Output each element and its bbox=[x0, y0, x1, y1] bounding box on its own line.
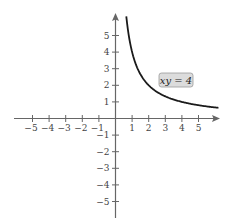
x-tick-label: −2 bbox=[74, 123, 87, 133]
y-tick-label: 1 bbox=[104, 97, 110, 107]
x-tick-label: −3 bbox=[58, 123, 72, 133]
hyperbola-chart: −5−4−3−2−11234554321−1−2−3−4−5 xy = 4 bbox=[0, 0, 231, 223]
x-tick-label: 1 bbox=[129, 123, 135, 133]
curve-path bbox=[126, 16, 218, 107]
y-tick-label: 4 bbox=[104, 47, 110, 57]
x-tick-label: 4 bbox=[179, 123, 185, 133]
axes bbox=[14, 13, 220, 218]
y-tick-label: −1 bbox=[96, 130, 109, 140]
y-tick-label: −4 bbox=[96, 180, 110, 190]
x-tick-label: 3 bbox=[162, 123, 168, 133]
equation-label: xy = 4 bbox=[159, 73, 193, 87]
equation-label-text: xy = 4 bbox=[160, 75, 192, 86]
y-tick-label: 3 bbox=[104, 64, 110, 74]
x-tick-label: −5 bbox=[24, 123, 38, 133]
x-tick-label: −4 bbox=[41, 123, 55, 133]
y-tick-label: 5 bbox=[104, 31, 110, 41]
x-tick-label: 5 bbox=[196, 123, 202, 133]
curve-xy-4 bbox=[126, 16, 218, 107]
y-tick-label: 2 bbox=[104, 80, 110, 90]
y-tick-label: −5 bbox=[96, 197, 110, 207]
y-tick-label: −3 bbox=[96, 163, 110, 173]
y-tick-label: −2 bbox=[96, 147, 109, 157]
x-tick-label: 2 bbox=[146, 123, 152, 133]
